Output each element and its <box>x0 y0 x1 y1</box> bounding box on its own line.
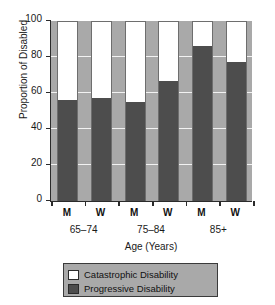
legend: Catastrophic Disability Progressive Disa… <box>63 263 218 297</box>
y-tick-20: 20 <box>46 164 51 166</box>
bar-85plus-w <box>226 21 247 201</box>
bar-segment-progressive <box>227 62 246 201</box>
gridline-80 <box>51 56 252 57</box>
x-label-85plus-m: M <box>191 207 213 218</box>
legend-label-catastrophic: Catastrophic Disability <box>84 269 178 280</box>
x-tick-6 <box>253 201 255 206</box>
x-tick-1 <box>85 201 87 206</box>
gridline-60 <box>51 92 252 93</box>
y-tick-80: 80 <box>46 56 51 58</box>
x-axis-title: Age (Years) <box>50 241 252 252</box>
chart-figure: Proportion of Disabled 0 20 40 60 80 100 <box>0 0 275 305</box>
y-tick-label-0: 0 <box>36 193 42 204</box>
bar-65-74-w <box>91 21 112 201</box>
legend-item-progressive: Progressive Disability <box>68 282 213 295</box>
legend-item-catastrophic: Catastrophic Disability <box>68 268 213 281</box>
x-label-75-84-w: W <box>157 207 179 218</box>
y-tick-100: 100 <box>46 20 51 22</box>
group-label-65-74: 65–74 <box>54 224 114 235</box>
legend-swatch-progressive-icon <box>68 284 79 294</box>
x-tick-5 <box>219 201 221 206</box>
bar-75-84-m <box>125 21 146 201</box>
bar-75-84-w <box>158 21 179 201</box>
x-tick-0 <box>51 201 53 206</box>
gridline-40 <box>51 128 252 129</box>
gridline-20 <box>51 164 252 165</box>
x-label-65-74-m: M <box>56 207 78 218</box>
x-label-65-74-w: W <box>90 207 112 218</box>
bar-65-74-m <box>57 21 78 201</box>
x-label-85plus-w: W <box>224 207 246 218</box>
x-tick-3 <box>152 201 154 206</box>
y-tick-40: 40 <box>46 128 51 130</box>
bar-segment-progressive <box>58 100 77 201</box>
x-label-75-84-m: M <box>123 207 145 218</box>
bar-segment-progressive <box>193 46 212 201</box>
legend-swatch-catastrophic-icon <box>68 270 79 280</box>
bar-segment-progressive <box>126 102 145 201</box>
y-tick-label-20: 20 <box>31 157 42 168</box>
y-tick-60: 60 <box>46 92 51 94</box>
y-tick-label-60: 60 <box>31 85 42 96</box>
x-tick-2 <box>118 201 120 206</box>
plot-area: 0 20 40 60 80 100 <box>50 21 252 202</box>
y-tick-label-80: 80 <box>31 49 42 60</box>
bar-segment-progressive <box>92 98 111 201</box>
group-label-85plus: 85+ <box>188 224 248 235</box>
legend-label-progressive: Progressive Disability <box>84 283 175 294</box>
y-tick-label-40: 40 <box>31 121 42 132</box>
y-tick-label-100: 100 <box>25 13 42 24</box>
x-tick-4 <box>186 201 188 206</box>
bar-85plus-m <box>192 21 213 201</box>
group-label-75-84: 75–84 <box>121 224 181 235</box>
bar-segment-progressive <box>159 81 178 201</box>
